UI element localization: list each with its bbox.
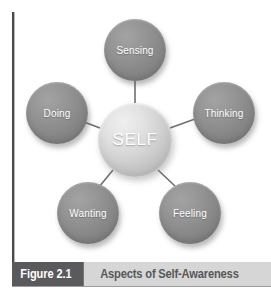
node-self-label: SELF [113, 130, 158, 150]
figure-caption-bar: Figure 2.1 Aspects of Self-Awareness [12, 262, 271, 286]
node-doing[interactable]: Doing [26, 82, 88, 144]
self-awareness-diagram: Sensing Thinking Feeling Wanting Doing S… [0, 0, 271, 262]
node-self-center[interactable]: SELF [98, 103, 172, 177]
figure-title-block: Aspects of Self-Awareness [90, 262, 258, 286]
node-wanting[interactable]: Wanting [57, 182, 119, 244]
node-wanting-label: Wanting [69, 208, 106, 219]
node-feeling-label: Feeling [173, 208, 207, 219]
figure-title-label: Aspects of Self-Awareness [100, 267, 238, 281]
figure-container: Sensing Thinking Feeling Wanting Doing S… [0, 0, 271, 291]
figure-caption-underline [12, 286, 271, 287]
connector-self-thinking [170, 119, 195, 128]
connector-self-feeling [158, 170, 176, 187]
figure-number-block: Figure 2.1 [12, 262, 84, 286]
node-doing-label: Doing [44, 108, 71, 119]
figure-number-label: Figure 2.1 [20, 267, 71, 281]
node-feeling[interactable]: Feeling [159, 182, 221, 244]
node-thinking[interactable]: Thinking [193, 82, 255, 144]
node-sensing-label: Sensing [116, 45, 153, 56]
node-sensing[interactable]: Sensing [104, 19, 166, 81]
node-thinking-label: Thinking [205, 108, 244, 119]
